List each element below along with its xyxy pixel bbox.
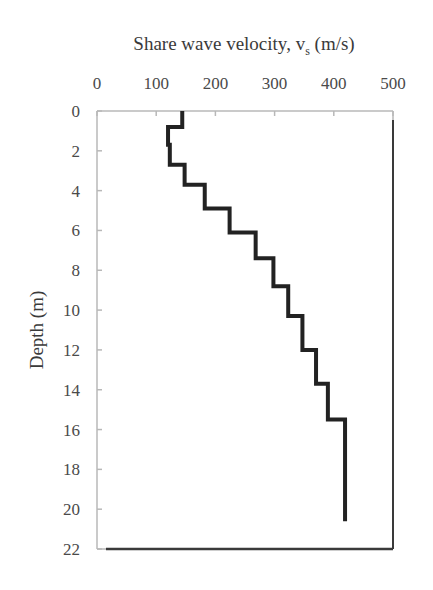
x-tick-label: 0 [93,74,102,93]
vs-profile-line [168,111,345,521]
y-tick-label: 12 [63,341,80,360]
y-tick-label: 18 [63,460,80,479]
plot-frame [97,111,393,549]
x-tick-label: 400 [321,74,347,93]
vs-depth-chart: Share wave velocity, vs (m/s) 0100200300… [0,0,433,590]
y-tick-labels: 0246810121416182022 [63,102,81,559]
tick-marks [97,111,393,549]
y-tick-label: 20 [63,500,80,519]
y-tick-label: 2 [72,142,81,161]
y-tick-label: 16 [63,421,80,440]
y-tick-label: 0 [72,102,81,121]
y-axis-title: Depth (m) [26,291,48,370]
y-tick-label: 6 [72,221,81,240]
x-tick-label: 200 [203,74,229,93]
y-tick-label: 4 [72,182,81,201]
y-tick-label: 10 [63,301,80,320]
y-tick-label: 22 [63,540,80,559]
y-tick-label: 8 [72,261,81,280]
x-tick-label: 100 [143,74,169,93]
x-axis-title: Share wave velocity, vs (m/s) [133,33,354,58]
x-tick-label: 500 [380,74,406,93]
y-tick-label: 14 [63,381,81,400]
x-tick-label: 300 [262,74,288,93]
x-tick-labels: 0100200300400500 [93,74,406,93]
